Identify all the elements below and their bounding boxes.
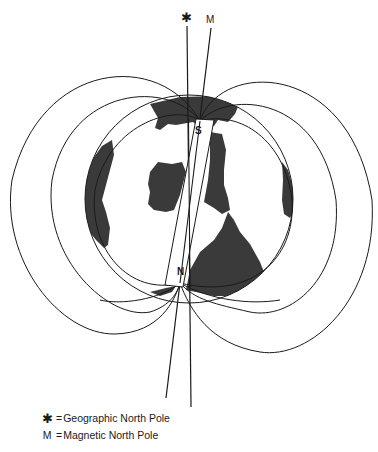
legend-item-geographic: ✱ = Geographic North Pole — [40, 410, 170, 427]
magnetic-pole-key: M — [40, 427, 54, 444]
southeast-landmass — [186, 212, 264, 296]
south-sliver — [150, 286, 176, 296]
legend-text: Geographic North Pole — [63, 410, 170, 427]
legend-equals: = — [56, 427, 62, 444]
legend-text: Magnetic North Pole — [63, 427, 158, 444]
magnet-north-pole-label: N — [177, 266, 184, 277]
legend-item-magnetic: M = Magnetic North Pole — [40, 427, 170, 444]
magnetic-field-diagram — [0, 0, 378, 452]
legend: ✱ = Geographic North Pole M = Magnetic N… — [40, 410, 170, 444]
west-landmass — [84, 140, 114, 248]
geographic-pole-icon: ✱ — [40, 410, 54, 427]
geographic-pole-symbol: ✱ — [181, 10, 192, 25]
magnet-south-pole-label: S — [195, 125, 202, 136]
legend-equals: = — [56, 410, 62, 427]
magnetic-pole-label: M — [206, 14, 214, 25]
